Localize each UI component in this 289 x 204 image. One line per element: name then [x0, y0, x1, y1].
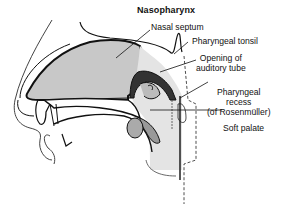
pharyngeal-wall	[132, 46, 182, 170]
diagram-title: Nasopharynx	[137, 5, 195, 15]
label-recess-line1: Pharyngeal	[207, 87, 271, 97]
dashed-outline	[184, 56, 196, 204]
label-pharyngeal-tonsil: Pharyngeal tonsil	[192, 36, 258, 46]
label-opening-line2: auditory tube	[196, 63, 246, 73]
label-nasal-septum: Nasal septum	[151, 22, 204, 32]
label-soft-palate: Soft palate	[223, 123, 264, 133]
nasal-cavity	[27, 40, 143, 100]
label-pharyngeal-recess: Pharyngeal recess (of Rosenmüller)	[207, 87, 271, 117]
label-recess-line2: recess	[207, 97, 271, 107]
label-opening-auditory-tube: Opening of auditory tube	[196, 53, 246, 73]
label-opening-line1: Opening of	[196, 53, 246, 63]
label-recess-line3: (of Rosenmüller)	[207, 107, 271, 117]
